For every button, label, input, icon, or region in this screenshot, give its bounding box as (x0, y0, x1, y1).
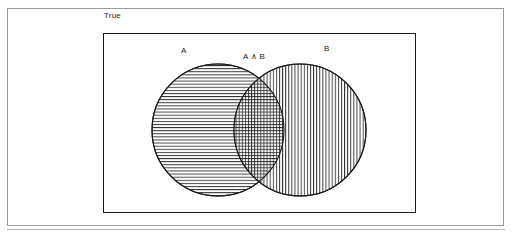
bottom-rule-divider (7, 229, 505, 230)
venn-diagram-figure: True A (0, 0, 516, 240)
set-a-label: A (181, 46, 187, 55)
universe-label: True (104, 11, 121, 20)
intersection-label: A ∧ B (243, 52, 265, 61)
set-b-label: B (324, 44, 330, 53)
